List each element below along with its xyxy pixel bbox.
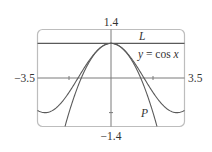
y-max-label: 1.4 xyxy=(104,16,119,28)
label-cosine-x: x xyxy=(173,48,180,60)
y-min-label: −1.4 xyxy=(101,130,122,142)
x-min-label: −3.5 xyxy=(14,72,35,84)
label-L: L xyxy=(138,30,145,42)
x-max-label: 3.5 xyxy=(188,72,203,84)
label-cosine: y = cos x xyxy=(137,48,180,61)
chart: 1.4 −1.4 −3.5 3.5 L y = cos x P xyxy=(0,0,212,152)
label-cosine-eq: = cos xyxy=(143,48,173,60)
label-P: P xyxy=(140,107,148,119)
